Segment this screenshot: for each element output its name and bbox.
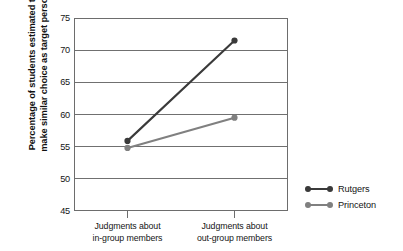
data-point-princeton — [124, 145, 130, 151]
line-chart: Percentage of students estimated to make… — [0, 0, 403, 251]
chart-legend: RutgersPrinceton — [305, 182, 401, 214]
legend-label: Princeton — [338, 200, 376, 210]
x-axis-tick-label-line: Judgments about — [93, 221, 163, 233]
x-axis-tick-label-line: in-group members — [93, 233, 163, 245]
data-point-princeton — [231, 115, 237, 121]
legend-dot-icon — [305, 186, 311, 192]
series-line-rutgers — [128, 41, 235, 141]
data-point-rutgers — [231, 37, 237, 43]
legend-dot-icon — [327, 202, 333, 208]
legend-item-princeton[interactable]: Princeton — [305, 198, 401, 212]
legend-label: Rutgers — [338, 184, 369, 194]
x-axis-tick-label: Judgments aboutout-group members — [197, 221, 272, 244]
legend-dot-icon — [305, 202, 311, 208]
legend-dot-icon — [327, 186, 333, 192]
x-axis-tick-label-line: out-group members — [197, 233, 272, 245]
x-axis-tick-label: Judgments aboutin-group members — [93, 221, 163, 244]
x-axis-tick-label-line: Judgments about — [197, 221, 272, 233]
legend-item-rutgers[interactable]: Rutgers — [305, 182, 401, 196]
legend-swatch-icon — [305, 184, 333, 194]
legend-swatch-icon — [305, 200, 333, 210]
series-line-princeton — [128, 118, 235, 148]
data-point-rutgers — [124, 138, 130, 144]
